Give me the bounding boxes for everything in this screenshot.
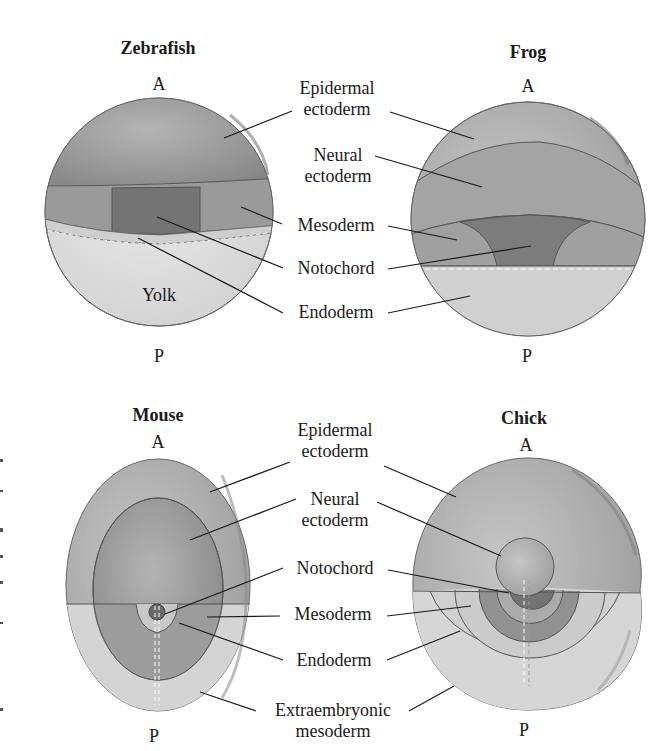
bottom-label-neural-line2: ectoderm — [302, 510, 369, 531]
panel-title-frog: Frog — [510, 42, 547, 63]
bottom-label-mesoderm: Mesoderm — [295, 604, 372, 625]
germ-layer-figure: Zebrafish Frog Mouse Chick A P A P A P A… — [0, 0, 669, 751]
top-label-mesoderm: Mesoderm — [298, 215, 375, 236]
zebrafish-epidermal-ectoderm — [40, 90, 280, 190]
top-label-endoderm: Endoderm — [299, 302, 374, 323]
mouse-notochord — [149, 604, 165, 620]
panel-title-zebrafish: Zebrafish — [120, 38, 195, 59]
panel-title-chick: Chick — [501, 408, 547, 429]
chick-neural-ectoderm — [496, 538, 554, 596]
chick-posterior-label: P — [519, 720, 529, 741]
top-label-notochord: Notochord — [298, 258, 375, 279]
bottom-label-notochord: Notochord — [297, 558, 374, 579]
frog-endoderm — [405, 266, 655, 346]
zebrafish-anterior-label: A — [153, 74, 166, 95]
zebrafish-yolk-label: Yolk — [142, 285, 176, 306]
bottom-label-extraembryonic-line1: Extraembryonic — [275, 700, 391, 721]
mouse-posterior-label: P — [149, 726, 159, 747]
bottom-label-epidermal-line2: ectoderm — [298, 441, 373, 462]
zebrafish-posterior-label: P — [154, 346, 164, 367]
frog-posterior-label: P — [522, 346, 532, 367]
top-label-epidermal-line1: Epidermal — [300, 78, 375, 99]
bottom-label-epidermal-line1: Epidermal — [298, 420, 373, 441]
mouse-embryo — [60, 459, 260, 724]
chick-embryo — [405, 458, 650, 720]
top-label-neural-ectoderm: Neural ectoderm — [305, 145, 372, 187]
frog-embryo — [405, 102, 655, 346]
panel-title-mouse: Mouse — [133, 405, 184, 426]
bottom-label-neural-line1: Neural — [302, 489, 369, 510]
chick-anterior-label: A — [520, 435, 533, 456]
top-label-epidermal-ectoderm: Epidermal ectoderm — [300, 78, 375, 120]
top-label-neural-line1: Neural — [305, 145, 372, 166]
bottom-label-epidermal-ectoderm: Epidermal ectoderm — [298, 420, 373, 462]
bottom-label-extraembryonic-line2: mesoderm — [275, 721, 391, 742]
mouse-anterior-label: A — [152, 432, 165, 453]
top-label-neural-line2: ectoderm — [305, 166, 372, 187]
bottom-label-neural-ectoderm: Neural ectoderm — [302, 489, 369, 531]
top-label-epidermal-line2: ectoderm — [300, 99, 375, 120]
bottom-label-extraembryonic-mesoderm: Extraembryonic mesoderm — [275, 700, 391, 742]
frog-anterior-label: A — [522, 76, 535, 97]
zebrafish-notochord — [112, 187, 200, 234]
bottom-label-endoderm: Endoderm — [297, 650, 372, 671]
